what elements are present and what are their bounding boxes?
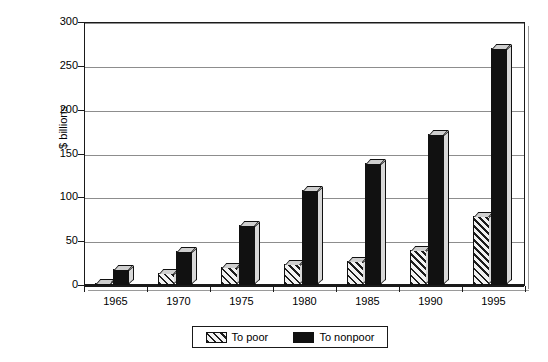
bar-group (462, 22, 525, 285)
x-axis-tick-mark (147, 286, 148, 292)
bar-group (210, 22, 273, 285)
x-axis-tick-mark (273, 286, 274, 292)
x-axis-tick-mark (210, 286, 211, 292)
legend-label-to-nonpoor: To nonpoor (319, 332, 374, 343)
y-axis-tick-mark (78, 241, 84, 242)
y-axis-tick-labels: 050100150200250300 (28, 22, 78, 285)
bar-body (113, 269, 130, 285)
bar-body (428, 134, 445, 285)
x-axis-tick-mark (336, 286, 337, 292)
y-axis-tick-label: 150 (34, 148, 78, 159)
bar-side-face (318, 187, 323, 284)
y-axis-tick-mark (78, 110, 84, 111)
bar-side-face (255, 222, 260, 284)
x-axis-tick-mark (399, 286, 400, 292)
bar-body (284, 264, 301, 285)
y-axis-tick-mark (78, 22, 84, 23)
bar-body (365, 163, 382, 285)
y-axis-tick-label: 200 (34, 104, 78, 115)
bar-group (84, 22, 147, 285)
bar-poor (347, 261, 364, 285)
y-axis-tick-label: 50 (34, 235, 78, 246)
x-axis-tick-label: 1995 (464, 295, 524, 307)
y-axis-tick-label: 250 (34, 60, 78, 71)
bar-nonpoor (113, 269, 130, 285)
bar-body (239, 225, 256, 285)
x-axis-tick-label: 1975 (212, 295, 272, 307)
bar-body (410, 250, 427, 285)
y-axis-tick-mark (78, 154, 84, 155)
x-axis-tick-mark (462, 286, 463, 292)
bar-poor (410, 250, 427, 285)
bar-nonpoor (239, 225, 256, 285)
legend-label-to-poor: To poor (232, 332, 269, 343)
bar-poor (473, 216, 490, 285)
bar-nonpoor (428, 134, 445, 285)
bar-side-face (507, 45, 512, 284)
bar-group (336, 22, 399, 285)
x-axis-tick-label: 1965 (86, 295, 146, 307)
legend-item-to-poor: To poor (206, 332, 269, 343)
chart-legend: To poor To nonpoor (192, 326, 388, 348)
bar-poor (158, 273, 175, 285)
bar-poor (284, 264, 301, 285)
x-axis-tick-label: 1990 (401, 295, 461, 307)
bar-body (491, 48, 508, 285)
y-axis-tick-label: 300 (34, 16, 78, 27)
bar-body (158, 273, 175, 285)
x-axis-tick-label: 1970 (149, 295, 209, 307)
bar-group (147, 22, 210, 285)
gridline (85, 286, 524, 287)
y-axis-tick-label: 0 (34, 279, 78, 290)
bars-layer (84, 22, 525, 285)
bar-side-face (381, 160, 386, 284)
legend-item-to-nonpoor: To nonpoor (293, 332, 374, 343)
bar-body (221, 267, 238, 285)
bar-group (273, 22, 336, 285)
y-axis-tick-mark (78, 285, 84, 286)
x-axis-tick-mark (84, 286, 85, 292)
bar-body (347, 261, 364, 285)
bar-side-face (192, 247, 197, 284)
x-axis-tick-label: 1980 (275, 295, 335, 307)
bar-body (473, 216, 490, 285)
bar-nonpoor (176, 251, 193, 285)
bar-nonpoor (491, 48, 508, 285)
bar-side-face (444, 131, 449, 284)
bar-nonpoor (302, 190, 319, 285)
bar-side-face (129, 266, 134, 284)
x-axis-tick-mark (525, 286, 526, 292)
bar-body (302, 190, 319, 285)
bar-body (176, 251, 193, 285)
bar-poor (221, 267, 238, 285)
y-axis-tick-label: 100 (34, 191, 78, 202)
y-axis-tick-mark (78, 197, 84, 198)
bar-nonpoor (365, 163, 382, 285)
x-axis-line (84, 285, 525, 286)
x-axis-tick-label: 1985 (338, 295, 398, 307)
y-axis-tick-mark (78, 66, 84, 67)
legend-swatch-to-poor (206, 332, 227, 343)
bar-group (399, 22, 462, 285)
bar-chart: $ billions 050100150200250300 1965197019… (0, 0, 548, 362)
legend-swatch-to-nonpoor (293, 332, 314, 343)
